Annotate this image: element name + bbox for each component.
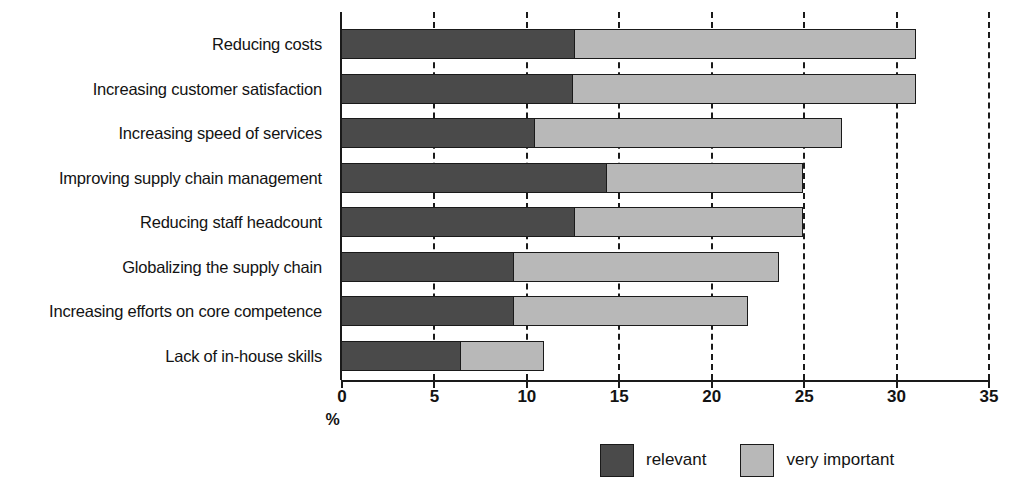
category-label: Improving supply chain management (59, 170, 322, 187)
bar-row (341, 341, 544, 371)
bar-segment-very-important (574, 207, 803, 237)
x-axis-tick-label: 35 (980, 388, 999, 405)
bar-segment-very-important (574, 29, 916, 59)
category-label: Lack of in-house skills (165, 348, 322, 365)
legend-swatch-icon (740, 444, 774, 477)
plot-area (341, 25, 988, 380)
bar-segment-relevant (341, 74, 574, 104)
x-axis-tick-label: 25 (795, 388, 814, 405)
bar-segment-very-important (534, 118, 842, 148)
category-label: Globalizing the supply chain (122, 259, 322, 276)
bar-segment-relevant (341, 341, 461, 371)
x-axis-title-label: % (325, 411, 339, 428)
bar-segment-relevant (341, 207, 576, 237)
stacked-bar-chart: Reducing costsIncreasing customer satisf… (0, 0, 1015, 491)
chart-legend: relevantvery important (600, 440, 894, 480)
bar-segment-relevant (341, 252, 515, 282)
bar-segment-very-important (513, 252, 779, 282)
bar-row (341, 29, 916, 59)
bar-segment-relevant (341, 163, 607, 193)
legend-item[interactable]: very important (740, 444, 894, 477)
bar-segment-very-important (513, 296, 747, 326)
legend-label: very important (786, 450, 894, 470)
gridline (988, 12, 990, 380)
bar-row (341, 207, 803, 237)
bar-segment-relevant (341, 296, 515, 326)
bar-segment-very-important (606, 163, 803, 193)
bar-row (341, 74, 916, 104)
bar-segment-very-important (572, 74, 915, 104)
bar-segment-very-important (460, 341, 545, 371)
x-axis-tick-label: 15 (610, 388, 629, 405)
category-label: Increasing efforts on core competence (49, 303, 322, 320)
bar-row (341, 118, 842, 148)
legend-label: relevant (646, 450, 706, 470)
x-axis-line (341, 380, 990, 382)
legend-swatch-icon (600, 444, 634, 477)
category-label: Reducing costs (212, 36, 322, 53)
category-label: Increasing speed of services (118, 125, 322, 142)
x-axis-tick-label: 0 (337, 388, 346, 405)
x-axis-title: % (0, 411, 1015, 429)
bar-row (341, 252, 779, 282)
bar-segment-relevant (341, 118, 535, 148)
category-label: Reducing staff headcount (140, 214, 322, 231)
gridline (896, 12, 898, 380)
x-axis-tick-label: 30 (887, 388, 906, 405)
category-axis-labels: Reducing costsIncreasing customer satisf… (0, 25, 330, 380)
bar-row (341, 163, 803, 193)
bar-segment-relevant (341, 29, 576, 59)
gridline (803, 12, 805, 380)
x-axis-tick-label: 20 (702, 388, 721, 405)
bar-row (341, 296, 748, 326)
legend-item[interactable]: relevant (600, 444, 706, 477)
x-axis-tick-label: 10 (517, 388, 536, 405)
category-label: Increasing customer satisfaction (93, 81, 322, 98)
x-axis-tick-label: 5 (430, 388, 439, 405)
